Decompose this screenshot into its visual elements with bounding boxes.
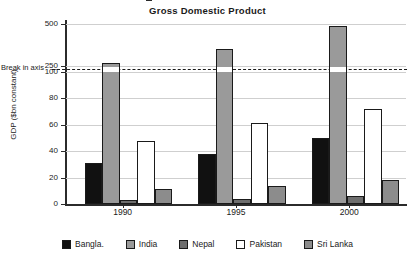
y-axis-tick [61,98,66,99]
x-axis-tick-label: 2000 [319,207,379,217]
y-axis-title: GDP ($bn constant) [9,40,18,170]
legend-item-srilanka[interactable]: Sri Lanka [304,239,353,249]
y-axis-tick-label: 80 [20,94,58,102]
y-axis-tick [61,125,66,126]
chart-canvas: Gross Domestic Product GDP ($bn constant… [0,0,415,263]
y-axis-tick [61,24,66,25]
legend-item-india[interactable]: India [126,239,157,249]
y-axis-tick [61,72,66,73]
gridline [66,24,406,25]
y-axis-tick [61,151,66,152]
y-axis-tick-label: 500 [20,20,58,28]
legend-item-bangla[interactable]: Bangla. [62,239,104,249]
x-axis-tick-label: 1990 [93,207,153,217]
legend-label: Bangla. [75,239,104,249]
y-axis-tick-label: 40 [20,147,58,155]
axis-break-gap [330,67,346,72]
bar-pakistan-1990 [137,141,155,204]
axis-break-gap [103,67,119,72]
bar-pakistan-1995 [251,123,269,204]
legend-item-nepal[interactable]: Nepal [179,239,214,249]
bar-india-1995 [216,49,234,204]
legend-swatch-icon [304,240,313,249]
y-axis-tick-label: 60 [20,121,58,129]
x-axis-tick-label: 1995 [206,207,266,217]
bar-pakistan-2000 [364,109,382,204]
legend-swatch-icon [179,240,188,249]
bar-bangla-1990 [85,163,103,204]
y-axis-tick [61,204,66,205]
axis-break-gap [217,67,233,72]
legend-label: India [139,239,157,249]
chart-title: Gross Domestic Product [0,5,415,16]
legend-label: Pakistan [249,239,282,249]
y-axis-tick-label: 20 [20,174,58,182]
plot-area [66,22,406,204]
y-axis-tick [61,178,66,179]
legend-item-pakistan[interactable]: Pakistan [236,239,282,249]
legend-swatch-icon [62,240,71,249]
bar-india-1990 [102,63,120,204]
legend-swatch-icon [236,240,245,249]
bar-nepal-2000 [347,196,365,204]
bar-bangla-2000 [312,138,330,204]
y-axis-tick-label: 0 [20,200,58,208]
bar-srilanka-1990 [155,189,173,204]
bar-srilanka-2000 [382,180,400,204]
y-axis-tick [61,66,66,67]
chart-legend: Bangla.IndiaNepalPakistanSri Lanka [0,236,415,252]
clipped-glyph-remnant [146,0,152,1]
legend-label: Sri Lanka [317,239,353,249]
axis-break-label: Break in axis [1,63,44,72]
bar-bangla-1995 [198,154,216,204]
bar-india-2000 [329,26,347,204]
legend-swatch-icon [126,240,135,249]
legend-label: Nepal [192,239,214,249]
bar-srilanka-1995 [268,186,286,204]
